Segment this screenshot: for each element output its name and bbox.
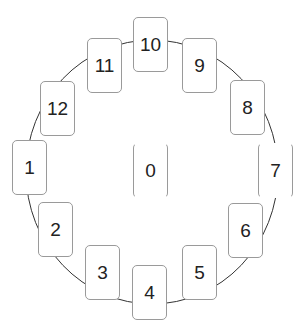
card-label: 6 bbox=[240, 220, 251, 242]
card-label: 0 bbox=[145, 160, 156, 182]
card-11: 11 bbox=[87, 38, 122, 93]
card-label: 12 bbox=[47, 98, 68, 120]
card-5: 5 bbox=[182, 245, 217, 300]
card-4: 4 bbox=[132, 265, 167, 320]
card-9: 9 bbox=[182, 38, 217, 93]
card-3: 3 bbox=[85, 245, 120, 300]
card-12: 12 bbox=[40, 81, 75, 136]
card-label: 1 bbox=[24, 157, 35, 179]
card-label: 5 bbox=[194, 262, 205, 284]
card-10: 10 bbox=[133, 17, 168, 72]
card-7: 7 bbox=[258, 143, 293, 198]
card-1: 1 bbox=[12, 140, 47, 195]
card-label: 11 bbox=[95, 55, 115, 77]
center-card-0: 0 bbox=[133, 143, 168, 198]
card-8: 8 bbox=[230, 80, 265, 135]
card-label: 4 bbox=[144, 282, 155, 304]
card-2: 2 bbox=[38, 202, 73, 257]
card-circle-diagram: 10 11 9 12 8 1 7 2 6 3 5 4 0 bbox=[0, 0, 305, 336]
card-label: 9 bbox=[194, 55, 205, 77]
card-6: 6 bbox=[228, 203, 263, 258]
card-label: 3 bbox=[97, 262, 108, 284]
card-label: 7 bbox=[270, 160, 281, 182]
card-label: 10 bbox=[140, 34, 161, 56]
card-label: 8 bbox=[242, 97, 253, 119]
card-label: 2 bbox=[50, 219, 61, 241]
